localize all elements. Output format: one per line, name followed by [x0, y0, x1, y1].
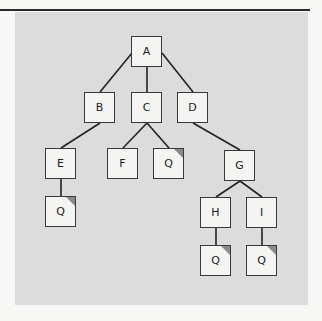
- node-label: Q: [56, 205, 65, 218]
- node-label: E: [57, 157, 64, 170]
- tree-node-q3: Q: [200, 245, 231, 276]
- tree-node-q4: Q: [246, 245, 277, 276]
- node-label: F: [119, 157, 125, 170]
- tree-node-b: B: [84, 92, 115, 123]
- edge-c-f: [123, 123, 147, 148]
- edge-b-e: [61, 123, 100, 148]
- corner-fold-icon: [267, 246, 276, 255]
- tree-node-g: G: [224, 150, 255, 181]
- tree-node-q2: Q: [45, 196, 76, 227]
- edge-g-i: [240, 181, 262, 197]
- tree-node-d: D: [177, 92, 208, 123]
- node-label: C: [143, 101, 151, 114]
- tree-node-c: C: [131, 92, 162, 123]
- node-label: Q: [164, 157, 173, 170]
- node-label: G: [235, 159, 244, 172]
- node-label: I: [260, 206, 263, 219]
- tree-node-f: F: [107, 148, 138, 179]
- corner-fold-icon: [66, 197, 75, 206]
- edge-g-h: [216, 181, 240, 197]
- tree-node-a: A: [131, 36, 162, 67]
- tree-node-i: I: [246, 197, 277, 228]
- corner-fold-icon: [221, 246, 230, 255]
- edge-d-g: [193, 123, 240, 150]
- node-label: Q: [257, 254, 266, 267]
- node-label: B: [96, 101, 104, 114]
- node-label: A: [143, 45, 151, 58]
- edge-c-q1: [147, 123, 169, 148]
- tree-node-q1: Q: [153, 148, 184, 179]
- edge-a-b: [100, 53, 132, 92]
- node-label: Q: [211, 254, 220, 267]
- corner-fold-icon: [174, 149, 183, 158]
- node-label: H: [211, 206, 219, 219]
- diagram-canvas: ABCDEFQGQHIQQ: [0, 0, 322, 321]
- edge-a-d: [162, 53, 193, 92]
- tree-node-h: H: [200, 197, 231, 228]
- node-label: D: [188, 101, 196, 114]
- tree-node-e: E: [45, 148, 76, 179]
